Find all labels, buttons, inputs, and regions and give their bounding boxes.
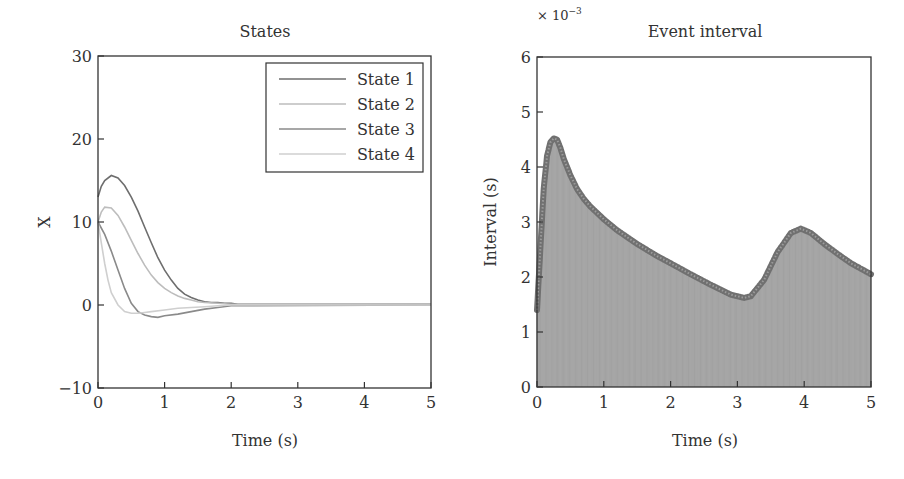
y-tick-label: 5 [521,103,531,122]
states-series [98,176,431,318]
states-chart: States −100102030 012345 Time (s) X Stat… [35,22,436,450]
y-tick-label: 0 [82,296,92,315]
states-x-axis: 012345 [93,382,436,412]
y-tick-label: −10 [58,379,92,398]
x-tick-label: 1 [599,393,609,412]
event-interval-y-label: Interval (s) [481,177,500,267]
x-tick-label: 3 [293,393,303,412]
state-2-line [98,207,431,304]
x-tick-label: 3 [732,393,742,412]
x-tick-label: 5 [866,393,876,412]
y-tick-label: 10 [72,213,92,232]
x-tick-label: 5 [426,393,436,412]
y-tick-label: 6 [521,48,531,67]
states-y-axis: −100102030 [58,47,104,398]
event-interval-title: Event interval [648,22,763,41]
y-tick-label: 3 [521,213,531,232]
states-title: States [239,22,290,41]
x-tick-label: 4 [359,393,369,412]
x-tick-label: 0 [93,393,103,412]
event-interval-x-label: Time (s) [672,431,738,450]
states-y-label: X [35,216,54,228]
legend-label: State 3 [357,120,415,139]
x-tick-label: 0 [532,393,542,412]
figure: States −100102030 012345 Time (s) X Stat… [0,0,904,479]
state-1-line [98,176,431,305]
x-tick-label: 4 [799,393,809,412]
y-multiplier: × 10−3 [537,6,582,23]
legend-label: State 4 [357,145,415,164]
x-tick-label: 1 [160,393,170,412]
states-legend: State 1State 2State 3State 4 [266,63,423,172]
y-tick-label: 0 [521,378,531,397]
y-tick-label: 20 [72,130,92,149]
y-tick-label: 4 [521,158,531,177]
y-tick-label: 1 [521,323,531,342]
states-x-label: Time (s) [232,431,298,450]
x-tick-label: 2 [226,393,236,412]
y-tick-label: 30 [72,47,92,66]
x-tick-label: 2 [666,393,676,412]
legend-label: State 2 [357,95,415,114]
y-tick-label: 2 [521,268,531,287]
event-interval-chart: Event interval × 10−3 0123456 012345 Tim… [481,6,876,450]
legend-label: State 1 [357,70,415,89]
event-interval-series [537,138,871,387]
